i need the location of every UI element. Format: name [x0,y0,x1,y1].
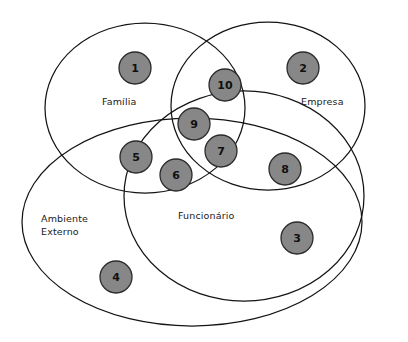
venn-node-9: 9 [178,108,210,140]
node-label-9: 9 [190,118,198,131]
venn-node-4: 4 [100,261,132,293]
venn-node-5: 5 [120,141,152,173]
venn-diagram-canvas: FamíliaEmpresaAmbienteExternoFuncionário… [0,0,408,342]
node-label-4: 4 [112,271,120,284]
venn-node-3: 3 [281,222,313,254]
venn-node-2: 2 [287,52,319,84]
venn-node-10: 10 [209,69,241,101]
venn-node-6: 6 [160,159,192,191]
node-label-3: 3 [293,232,301,245]
node-label-2: 2 [299,62,307,75]
node-label-6: 6 [172,169,180,182]
venn-node-1: 1 [119,52,151,84]
venn-diagram: FamíliaEmpresaAmbienteExternoFuncionário… [0,0,408,342]
venn-node-8: 8 [269,153,301,185]
set-label-empresa: Empresa [301,96,344,107]
node-label-7: 7 [217,145,225,158]
node-label-10: 10 [217,79,233,92]
node-label-8: 8 [281,163,289,176]
node-label-5: 5 [132,151,140,164]
venn-node-7: 7 [205,135,237,167]
set-label-ambiente-externo: AmbienteExterno [41,213,88,237]
set-label-funcionario: Funcionário [178,210,235,221]
node-label-1: 1 [131,62,139,75]
set-label-familia: Família [102,96,136,107]
